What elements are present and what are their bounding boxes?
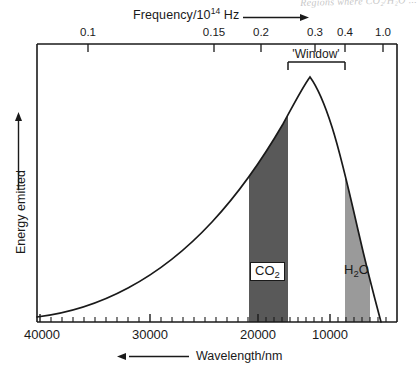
h2o-band-label: H2O	[344, 263, 369, 277]
h2o-band-group	[345, 44, 370, 322]
h2o-label-text-a: H	[344, 262, 353, 277]
bottom-tick-label-0: 40000	[24, 327, 60, 342]
plot-area	[0, 0, 417, 372]
top-tick-label-1: 0.15	[203, 26, 225, 38]
top-tick-label-3: 0.3	[307, 26, 323, 38]
bottom-tick-label-1: 30000	[132, 327, 168, 342]
co2-label-subscript: 2	[275, 269, 280, 280]
top-tick-label-2: 0.2	[253, 26, 269, 38]
blackbody-emission-figure: Regions where CO₂/H₂O ... Frequency/1014…	[0, 0, 417, 372]
emission-curve	[37, 77, 381, 322]
top-axis-ticks	[88, 44, 383, 52]
top-tick-label-0: 0.1	[80, 26, 96, 38]
co2-band-label: CO2	[250, 262, 285, 281]
top-tick-label-5: 1.0	[375, 26, 391, 38]
bottom-tick-label-2: 20000	[240, 327, 276, 342]
bottom-tick-label-3: 10000	[312, 327, 348, 342]
h2o-label-text-b: O	[359, 262, 369, 277]
co2-label-text: CO	[255, 263, 275, 278]
h2o-absorption-band	[345, 44, 370, 322]
plot-frame	[37, 44, 397, 322]
h2o-label-subscript: 2	[353, 268, 358, 279]
top-tick-label-4: 0.4	[337, 26, 353, 38]
window-bracket	[288, 62, 345, 70]
